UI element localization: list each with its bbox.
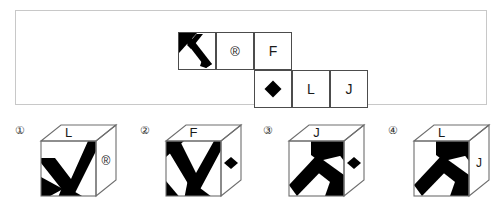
diamond-icon (265, 81, 282, 98)
option-4[interactable]: ④ (378, 112, 500, 215)
question-panel: ® F L J (15, 10, 487, 105)
cube-net: ® F L J (178, 32, 378, 110)
net-cell-k-arrow (178, 32, 216, 70)
net-cell-registered: ® (216, 32, 254, 70)
option-4-number: ④ (388, 124, 398, 137)
option-4-cube: L J (406, 117, 500, 212)
net-cell-j: J (330, 70, 368, 108)
option-1-top-label: L (65, 125, 72, 140)
option-2-top-label: F (190, 125, 198, 140)
net-cell-l: L (292, 70, 330, 108)
option-3-top-label: J (313, 125, 320, 140)
option-1-cube: L ® (33, 117, 128, 212)
option-4-right-label: J (476, 156, 482, 170)
option-2-cube: F (158, 117, 253, 212)
net-cell-f: F (254, 32, 292, 70)
option-2-front-glyph (166, 141, 226, 200)
net-cell-diamond (254, 70, 292, 108)
option-2[interactable]: ② (130, 112, 255, 215)
option-3-number: ③ (263, 124, 273, 137)
option-3-front-glyph (289, 141, 344, 196)
option-3-right-diamond-icon (347, 157, 361, 169)
net-label-l: L (307, 82, 315, 96)
screenshot-root: ® F L J ① (0, 0, 500, 215)
net-label-f: F (269, 44, 278, 58)
option-3[interactable]: ③ (253, 112, 378, 215)
answer-options: ① (0, 112, 500, 215)
option-2-right-diamond-icon (224, 157, 238, 169)
option-2-number: ② (140, 124, 150, 137)
option-4-front-glyph (414, 141, 469, 196)
option-4-top-label: L (438, 125, 445, 140)
k-arrow-icon (179, 33, 215, 69)
option-1[interactable]: ① (5, 112, 130, 215)
option-1-number: ① (15, 124, 25, 137)
option-3-cube: J (281, 117, 376, 212)
registered-symbol: ® (230, 45, 240, 58)
option-1-front-glyph (41, 141, 101, 201)
option-1-right-label: ® (102, 154, 111, 168)
net-label-j: J (346, 82, 353, 96)
